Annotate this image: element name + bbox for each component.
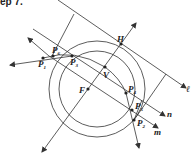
point-P2 xyxy=(132,118,135,121)
label-line-l: ℓ xyxy=(186,84,190,94)
line-m-ext xyxy=(28,38,49,56)
label-H: H xyxy=(116,34,125,44)
label-line-m: m xyxy=(154,127,161,137)
label-P3: P3 xyxy=(70,57,79,68)
label-P2: P2 xyxy=(137,118,146,129)
label-P1: P1 xyxy=(38,59,46,70)
point-V xyxy=(103,65,106,68)
axis-line xyxy=(88,23,136,89)
label-V: V xyxy=(103,70,110,80)
label-F: F xyxy=(78,85,85,95)
label-line-n: n xyxy=(167,109,172,119)
line-n xyxy=(33,29,165,116)
point-F xyxy=(86,87,89,90)
point-P5 xyxy=(130,108,133,111)
label-P5: P5 xyxy=(135,101,144,112)
axis-line-lower xyxy=(42,89,88,152)
parabola-construction-diagram: H V F P1 P6 P3 P4 P5 P2 ℓ n m xyxy=(0,0,193,156)
